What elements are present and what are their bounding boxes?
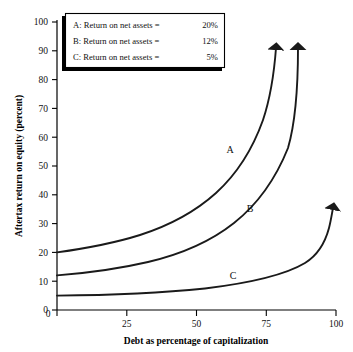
legend: A: Return on net assets = 20% B: Return … <box>62 14 225 72</box>
y-tick-label-70: 70 <box>39 104 49 114</box>
y-tick-label-80: 80 <box>39 75 49 85</box>
curves-group <box>57 48 333 296</box>
x-axis-ticks <box>57 310 336 316</box>
y-tick-label-30: 30 <box>39 219 49 229</box>
x-tick-label-50: 50 <box>192 319 202 329</box>
legend-value-b: 12% <box>202 36 218 46</box>
legend-label-a: A: Return on net assets = <box>73 20 160 30</box>
y-tick-label-60: 60 <box>39 133 49 143</box>
legend-label-b: B: Return on net assets = <box>73 36 159 46</box>
y-tick-label-40: 40 <box>39 190 49 200</box>
x-tick-label-0: 0 <box>46 309 51 319</box>
y-axis-tick-labels: 0 10 20 30 40 50 60 70 80 90 100 <box>34 17 49 315</box>
y-tick-label-90: 90 <box>39 46 49 56</box>
x-tick-label-25: 25 <box>122 319 132 329</box>
y-tick-label-100: 100 <box>34 17 49 27</box>
legend-value-a: 20% <box>202 20 218 30</box>
y-axis-title: Aftertax return on equity (percent) <box>14 95 25 237</box>
curve-label-c: C <box>230 270 237 281</box>
chart-svg: 0 10 20 30 40 50 60 70 80 90 100 0 25 50… <box>0 0 353 352</box>
curve-label-a: A <box>226 144 234 155</box>
curve-c <box>57 208 333 296</box>
curve-label-b: B <box>247 203 254 214</box>
y-tick-label-20: 20 <box>39 248 49 258</box>
x-axis-tick-labels: 0 25 50 75 100 <box>46 309 344 329</box>
x-axis-title: Debt as percentage of capitalization <box>124 336 269 346</box>
curve-b <box>57 48 298 275</box>
y-tick-label-10: 10 <box>39 277 49 287</box>
x-tick-label-75: 75 <box>262 319 272 329</box>
legend-value-c: 5% <box>207 52 218 62</box>
legend-label-c: C: Return on net assets = <box>73 52 159 62</box>
chart-container: 0 10 20 30 40 50 60 70 80 90 100 0 25 50… <box>0 0 353 352</box>
y-tick-label-50: 50 <box>39 161 49 171</box>
x-tick-label-100: 100 <box>329 319 344 329</box>
y-axis-ticks <box>52 22 57 310</box>
curve-a <box>57 48 276 252</box>
